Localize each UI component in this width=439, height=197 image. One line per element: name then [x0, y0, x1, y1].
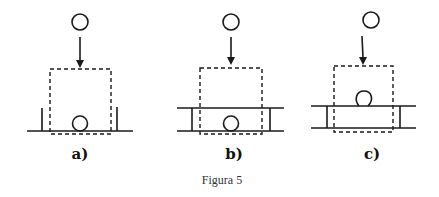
dashed-box-c [334, 66, 393, 132]
arrow-head-b [227, 57, 235, 65]
resting-circle-a [73, 116, 88, 131]
panel-label-b: b) [225, 147, 243, 162]
falling-circle-b [223, 14, 239, 30]
arrow-head-a [76, 60, 84, 68]
falling-circle-a [72, 14, 88, 30]
resting-circle-c [356, 91, 371, 106]
resting-circle-b [224, 116, 239, 131]
figure-caption: Figura 5 [202, 174, 242, 186]
panel-label-c: c) [364, 147, 380, 162]
panel-b [177, 14, 284, 134]
falling-circle-c [363, 12, 379, 28]
arrow-head-c [359, 57, 367, 65]
dashed-box-b [200, 68, 262, 134]
figure-diagram [0, 0, 439, 197]
panel-a [27, 14, 133, 134]
panel-c [311, 12, 416, 132]
arrow-shaft-c [362, 36, 363, 58]
dashed-box-a [50, 69, 111, 134]
panel-label-a: a) [72, 147, 89, 162]
